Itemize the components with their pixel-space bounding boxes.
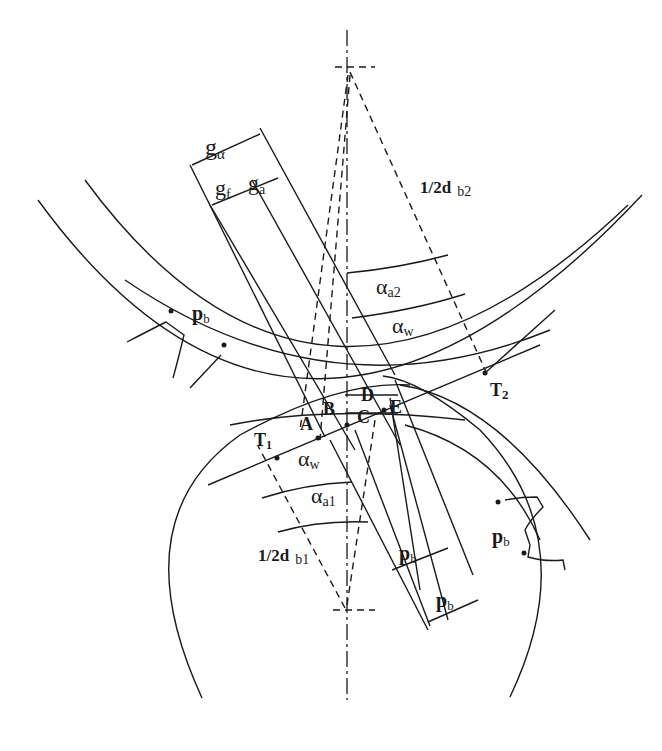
label-pb-dim-2: pb xyxy=(436,589,454,613)
label-T2: T2 xyxy=(490,380,509,402)
gear-mesh-diagram: gα gf ga 1/2db2 1/2db1 αa2 αw αw αa1 T1 … xyxy=(0,0,662,751)
label-alpha-w-bottom: αw xyxy=(298,446,321,472)
g-alpha-dimension xyxy=(192,134,260,165)
label-T1: T1 xyxy=(254,430,272,452)
gear1-pb-point-2 xyxy=(522,551,527,556)
pb-line-4 xyxy=(330,440,428,630)
label-g-a: ga xyxy=(248,170,266,197)
label-alpha-a2: αa2 xyxy=(376,274,401,300)
line-of-action xyxy=(208,345,540,485)
gear1-tip-arc-right xyxy=(405,425,540,540)
band-line-4 xyxy=(260,128,395,375)
label-pb-dim-1: pb xyxy=(399,542,417,566)
gear2-base-arc xyxy=(125,280,550,365)
alpha-w-top-arc xyxy=(352,294,465,318)
point-C xyxy=(345,423,350,428)
point-T1 xyxy=(275,456,280,461)
label-g-alpha: gα xyxy=(205,134,225,162)
label-alpha-a1: αa1 xyxy=(311,483,336,509)
diagram-svg: gα gf ga 1/2db2 1/2db1 αa2 αw αw αa1 T1 … xyxy=(0,0,662,751)
alpha-a1-arc xyxy=(278,522,368,532)
label-g-f: gf xyxy=(215,175,231,202)
label-alpha-w-top: αw xyxy=(392,313,415,339)
gear1-base-circle xyxy=(169,385,410,698)
label-E: E xyxy=(390,397,402,417)
gear2-pb-point-2 xyxy=(222,343,227,348)
label-half-db1: 1/2db1 xyxy=(258,546,309,567)
point-T2 xyxy=(483,371,488,376)
radius-gear2-inner xyxy=(320,75,350,440)
pb-line-5 xyxy=(355,430,430,626)
gear1-base-circle-right xyxy=(383,376,541,697)
label-pb-gear1: pb xyxy=(492,525,510,549)
gear2-tooth-profile xyxy=(127,322,184,378)
gear1-tooth-profile xyxy=(505,497,565,570)
label-half-db2: 1/2db2 xyxy=(420,178,471,199)
label-C: C xyxy=(357,407,370,427)
point-A xyxy=(316,436,321,441)
alpha-a2-arc xyxy=(347,255,448,273)
radius-gear1-to-E xyxy=(347,420,375,605)
radius-gear2-to-A xyxy=(300,75,348,430)
label-A: A xyxy=(300,414,313,434)
radius-half-db2 xyxy=(350,72,487,374)
gear2-tooth-profile-2 xyxy=(190,355,221,388)
label-B: B xyxy=(323,399,335,419)
gear1-pb-point-1 xyxy=(496,500,501,505)
point-E xyxy=(382,408,387,413)
gear2-outer-arc xyxy=(38,195,642,379)
gear2-tangent-extension xyxy=(485,310,555,373)
label-pb-gear2: pb xyxy=(192,302,210,326)
alpha-w-bottom-arc xyxy=(262,482,352,498)
label-D: D xyxy=(361,385,374,405)
gear2-pb-point-1 xyxy=(169,309,174,314)
